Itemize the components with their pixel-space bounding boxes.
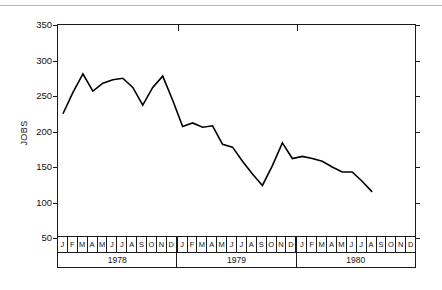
month-axis-strip: JFMAMJJASONDJFMAMJJASONDJFMAMJJASOND	[57, 237, 416, 253]
y-tick-200	[53, 132, 58, 133]
month-cell-1979-2: F	[188, 237, 198, 252]
month-cell-1978-4: A	[88, 237, 98, 252]
y-tick-250	[53, 96, 58, 97]
y-tick-label-100: 100	[36, 196, 52, 207]
y-tick-right-100	[415, 203, 420, 204]
y-tick-150	[53, 167, 58, 168]
month-cell-1979-3: M	[197, 237, 207, 252]
month-cell-1978-6: J	[107, 237, 117, 252]
year-cell-1978: 1978	[58, 253, 177, 267]
month-cell-1980-3: M	[317, 237, 327, 252]
month-cell-1978-1: J	[58, 237, 68, 252]
month-cell-1980-9: S	[377, 237, 387, 252]
jobs-time-series-chart: JOBS 50100150200250300350 JFMAMJJASONDJF…	[0, 0, 442, 290]
y-tick-label-150: 150	[36, 161, 52, 172]
series-line	[58, 25, 417, 238]
y-tick-label-300: 300	[36, 54, 52, 65]
month-cell-1979-4: A	[207, 237, 217, 252]
month-cell-1979-9: S	[257, 237, 267, 252]
month-cell-1980-1: J	[296, 237, 307, 252]
month-cell-1979-11: N	[277, 237, 287, 252]
month-cell-1979-10: O	[267, 237, 277, 252]
year-axis-strip: 197819791980	[57, 253, 416, 268]
month-cell-1980-7: J	[357, 237, 367, 252]
month-cell-1980-11: N	[396, 237, 406, 252]
month-cell-1979-1: J	[177, 237, 188, 252]
month-cell-1980-8: A	[367, 237, 377, 252]
month-cell-1980-12: D	[406, 237, 415, 252]
month-cell-1978-12: D	[167, 237, 177, 252]
month-cell-1980-4: A	[327, 237, 337, 252]
y-tick-right-250	[415, 96, 420, 97]
month-cell-1978-9: S	[137, 237, 147, 252]
month-cell-1980-10: O	[386, 237, 396, 252]
month-cell-1979-12: D	[286, 237, 296, 252]
month-cell-1978-3: M	[78, 237, 88, 252]
y-tick-right-300	[415, 61, 420, 62]
y-tick-right-200	[415, 132, 420, 133]
month-cell-1978-8: A	[127, 237, 137, 252]
y-tick-label-250: 250	[36, 90, 52, 101]
y-tick-right-150	[415, 167, 420, 168]
year-cell-1979: 1979	[177, 253, 296, 267]
month-cell-1979-6: J	[227, 237, 237, 252]
month-cell-1978-11: N	[157, 237, 167, 252]
y-tick-label-200: 200	[36, 125, 52, 136]
y-tick-100	[53, 203, 58, 204]
y-tick-350	[53, 25, 58, 26]
month-cell-1978-10: O	[147, 237, 157, 252]
month-cell-1979-8: A	[247, 237, 257, 252]
month-cell-1980-2: F	[307, 237, 317, 252]
year-divider-tick-1980	[297, 25, 298, 31]
month-cell-1979-5: M	[217, 237, 227, 252]
plot-frame	[57, 24, 416, 237]
month-cell-1980-5: M	[337, 237, 347, 252]
y-tick-right-350	[415, 25, 420, 26]
year-cell-1980: 1980	[297, 253, 415, 267]
month-cell-1979-7: J	[237, 237, 247, 252]
month-cell-1980-6: J	[347, 237, 357, 252]
month-cell-1978-7: J	[117, 237, 127, 252]
month-cell-1978-5: M	[98, 237, 108, 252]
month-cell-1978-2: F	[68, 237, 78, 252]
y-tick-label-50: 50	[41, 232, 52, 243]
y-axis-tick-labels: 50100150200250300350	[0, 24, 52, 237]
y-tick-label-350: 350	[36, 19, 52, 30]
year-divider-tick-1979	[178, 25, 179, 31]
y-tick-300	[53, 61, 58, 62]
